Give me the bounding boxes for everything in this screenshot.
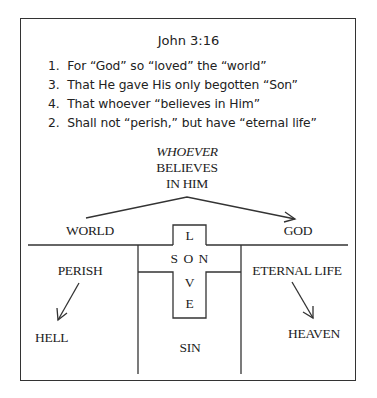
verse-line: 2. Shall not “perish,” but have “eternal… [48, 116, 317, 130]
sin-label: SIN [160, 340, 220, 356]
cross-letter-v: V [173, 275, 206, 291]
cross-letter-e: E [173, 296, 206, 312]
verse-number: 3. [48, 78, 60, 92]
verse-number: 1. [48, 59, 60, 73]
heaven-arrow-line [292, 282, 313, 318]
believe-arrow-line [86, 197, 295, 219]
believes-label: BELIEVES [137, 160, 237, 176]
god-label: GOD [258, 223, 338, 239]
whoever-label: WHOEVER [137, 144, 237, 160]
in-him-label: IN HIM [137, 176, 237, 192]
verse-text: That He gave His only begotten “Son” [67, 78, 298, 92]
verse-number: 4. [48, 97, 60, 111]
verse-number: 2. [48, 116, 60, 130]
verse-line: 4. That whoever “believes in Him” [48, 97, 260, 111]
verse-line: 3. That He gave His only begotten “Son” [48, 78, 298, 92]
verse-text: Shall not “perish,” but have “eternal li… [67, 116, 317, 130]
cross-son: S O N [160, 251, 220, 267]
perish-label: PERISH [40, 263, 120, 279]
heaven-label: HEAVEN [283, 326, 345, 342]
verse-text: For “God” so “loved” the “world” [67, 59, 266, 73]
page-title: John 3:16 [0, 33, 377, 48]
perish-arrow-line [58, 283, 79, 320]
eternal-life-label: ETERNAL LIFE [244, 263, 350, 279]
world-label: WORLD [50, 223, 130, 239]
verse-line: 1. For “God” so “loved” the “world” [48, 59, 267, 73]
cross-letter-l: L [173, 228, 206, 244]
verse-text: That whoever “believes in Him” [67, 97, 260, 111]
hell-label: HELL [35, 330, 68, 346]
